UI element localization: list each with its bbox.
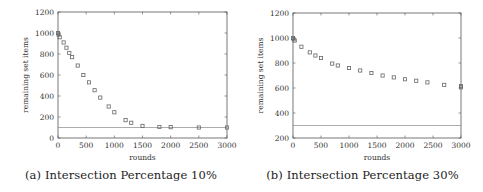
data-point-marker [87,81,90,84]
data-point-marker [370,71,373,74]
scatter-plot-a: 0500100015002000250030000200400600800100… [0,0,242,192]
y-tick-label: 0 [49,134,54,143]
y-axis-label: remaining set items [21,37,30,113]
y-tick-label: 1000 [35,29,54,38]
y-tick-label: 200 [275,134,290,143]
y-tick-label: 1000 [270,34,289,43]
x-tick-label: 0 [291,141,296,150]
data-point-marker [314,54,317,57]
y-tick-label: 800 [40,50,55,59]
y-tick-label: 400 [275,109,290,118]
x-tick-label: 0 [56,141,61,150]
data-point-marker [443,83,446,86]
y-tick-label: 1200 [35,8,54,17]
chart-panel-a: 0500100015002000250030000200400600800100… [0,0,242,192]
x-tick-label: 1500 [133,141,152,150]
data-point-marker [300,45,303,48]
data-point-marker [158,125,161,128]
data-point-marker [99,96,102,99]
data-point-marker [70,56,73,59]
x-axis-label: rounds [129,153,156,162]
x-tick-label: 1000 [339,141,358,150]
data-point-marker [403,78,406,81]
y-tick-label: 400 [40,92,55,101]
scatter-plot-b: 0500100015002000250030002004006008001000… [242,0,483,192]
data-point-marker [336,64,339,67]
data-point-marker [347,66,350,69]
y-axis-label: remaining set items [256,37,265,113]
caption-b: (b) Intersection Percentage 30% [242,168,483,182]
y-tick-label: 1200 [270,9,289,18]
caption-a: (a) Intersection Percentage 10% [0,168,242,182]
data-point-marker [107,105,110,108]
x-tick-label: 500 [79,141,94,150]
data-point-marker [68,51,71,54]
x-tick-label: 2500 [423,141,442,150]
data-point-marker [124,119,127,122]
data-point-marker [76,64,79,67]
y-tick-label: 600 [275,84,290,93]
data-point-marker [308,51,311,54]
data-point-marker [141,124,144,127]
x-tick-label: 3000 [217,141,236,150]
data-point-marker [113,111,116,114]
x-tick-label: 3000 [451,141,470,150]
x-axis-label: rounds [364,153,391,162]
data-point-marker [381,74,384,77]
data-point-marker [415,79,418,82]
x-tick-label: 2000 [395,141,414,150]
data-point-marker [426,81,429,84]
data-point-marker [359,69,362,72]
data-point-marker [392,76,395,79]
y-tick-label: 200 [40,113,55,122]
data-point-marker [65,46,68,49]
y-tick-label: 600 [40,71,55,80]
y-tick-label: 800 [275,59,290,68]
x-tick-label: 2500 [189,141,208,150]
data-point-marker [93,89,96,92]
data-point-marker [130,121,133,124]
x-tick-label: 500 [314,141,329,150]
plot-frame [293,13,461,138]
x-tick-label: 2000 [161,141,180,150]
x-tick-label: 1500 [367,141,386,150]
x-tick-label: 1000 [105,141,124,150]
data-point-marker [62,41,65,44]
data-point-marker [319,56,322,59]
chart-panel-b: 0500100015002000250030002004006008001000… [242,0,483,192]
data-point-marker [331,62,334,65]
data-point-marker [82,73,85,76]
plot-frame [58,12,227,138]
